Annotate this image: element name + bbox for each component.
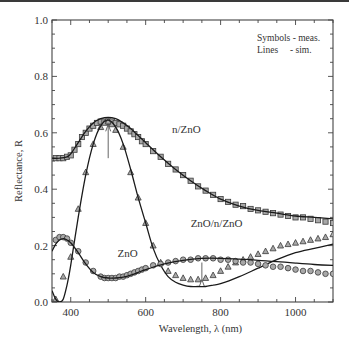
marker-triangle [330, 231, 336, 237]
marker-circle [308, 268, 314, 274]
marker-circle [330, 271, 336, 277]
series-zno-n-zno [52, 118, 336, 302]
x-axis-title: Wavelength, λ (nm) [159, 323, 243, 335]
x-tick-label: 1000 [285, 306, 308, 318]
y-tick-label: 0.4 [34, 183, 48, 195]
reflectance-chart: 40060080010000.00.20.40.60.81.0 Waveleng… [0, 0, 349, 350]
series-zno [52, 234, 336, 280]
marker-circle [225, 257, 231, 263]
legend-note-lines: Lines - sim. [257, 45, 312, 55]
marker-circle [293, 267, 299, 273]
marker-circle [285, 265, 291, 271]
marker-triangle [315, 235, 321, 241]
marker-circle [315, 270, 321, 276]
marker-circle [323, 271, 329, 277]
marker-triangle [165, 268, 171, 274]
series-layer [52, 117, 336, 302]
marker-triangle [278, 242, 284, 248]
y-tick-label: 1.0 [34, 14, 48, 26]
marker-triangle [173, 272, 179, 278]
marker-square [323, 219, 328, 224]
marker-circle [255, 261, 261, 267]
marker-triangle [323, 234, 329, 240]
marker-triangle [255, 251, 261, 257]
legend-note-symbols: Symbols - meas. [257, 33, 320, 43]
ticks: 40060080010000.00.20.40.60.81.0 [34, 14, 333, 318]
marker-circle [248, 260, 254, 266]
y-tick-label: 0.2 [34, 240, 48, 252]
y-tick-label: 0.6 [34, 127, 48, 139]
sim-line-zno-n-zno [52, 120, 333, 302]
marker-circle [263, 263, 269, 269]
marker-triangle [188, 276, 194, 282]
marker-circle [278, 264, 284, 270]
y-axis-title: Reflectance, R [13, 140, 24, 202]
marker-circle [240, 260, 246, 266]
marker-triangle [60, 273, 66, 279]
label-zno: ZnO [118, 247, 138, 259]
marker-triangle [263, 248, 269, 254]
marker-triangle [300, 238, 306, 244]
y-tick-label: 0.0 [34, 296, 48, 308]
x-tick-label: 600 [137, 306, 154, 318]
marker-triangle [180, 275, 186, 281]
marker-triangle [225, 264, 231, 270]
x-tick-label: 400 [62, 306, 79, 318]
marker-circle [300, 268, 306, 274]
y-tick-label: 0.8 [34, 70, 48, 82]
x-tick-label: 800 [212, 306, 229, 318]
marker-triangle [293, 240, 299, 246]
marker-triangle [285, 241, 291, 247]
marker-triangle [248, 254, 254, 260]
marker-triangle [308, 237, 314, 243]
marker-circle [270, 264, 276, 270]
label-zno-n-zno: ZnO/n/ZnO [191, 217, 243, 229]
marker-triangle [210, 272, 216, 278]
label-n-zno: n/ZnO [172, 123, 201, 135]
marker-triangle [218, 268, 224, 274]
marker-triangle [270, 245, 276, 251]
marker-triangle [195, 276, 201, 282]
marker-triangle [203, 275, 209, 281]
marker-square [330, 220, 335, 225]
